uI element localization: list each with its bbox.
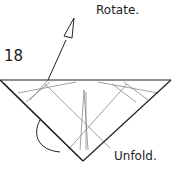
paper-outline xyxy=(0,80,171,161)
crease-lines xyxy=(18,80,158,150)
rotate-arrow-icon xyxy=(48,18,74,80)
origami-diagram xyxy=(0,0,174,176)
